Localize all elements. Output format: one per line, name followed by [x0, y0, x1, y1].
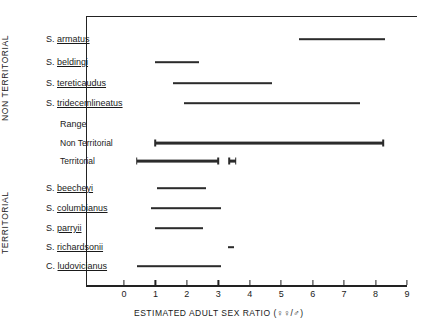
range-bar	[155, 142, 383, 145]
row-label-epithet: richardsonii	[57, 242, 103, 252]
range-bar	[228, 246, 234, 248]
x-axis-tick	[155, 280, 156, 285]
x-axis-tick	[375, 280, 376, 285]
group-label-territorial: TERRITORIAL	[0, 170, 22, 275]
x-axis-line	[86, 285, 407, 287]
row-label: S. beldingi	[46, 57, 88, 67]
x-axis-tick-label: 0	[121, 289, 126, 299]
x-axis-tick-label: 9	[404, 289, 409, 299]
row-label-genus: S.	[46, 98, 57, 108]
row-label-genus: S.	[46, 57, 57, 67]
row-label-genus: S.	[46, 223, 57, 233]
row-label-epithet: columbianus	[57, 203, 108, 213]
range-bar-cap	[218, 158, 220, 165]
row-label: Territorial	[60, 156, 95, 166]
row-label: S. columbianus	[46, 203, 108, 213]
row-label-genus: S.	[46, 183, 57, 193]
x-axis-tick	[218, 280, 219, 285]
range-bar	[184, 102, 360, 104]
range-bar-cap	[155, 140, 157, 147]
row-label-genus: S.	[46, 78, 57, 88]
row-label-epithet: tereticaudus	[57, 78, 106, 88]
row-label-epithet: beecheyi	[57, 183, 93, 193]
x-axis-tick-label: 4	[247, 289, 252, 299]
range-bar-cap	[235, 158, 237, 165]
row-label: S. tereticaudus	[46, 78, 106, 88]
x-axis-tick	[406, 280, 407, 285]
plot-frame	[86, 16, 417, 285]
row-label-epithet: tridecemlineatus	[57, 98, 123, 108]
x-axis-title: ESTIMATED ADULT SEX RATIO (♀♀/♂)	[134, 308, 304, 318]
x-axis-tick-label: 5	[279, 289, 284, 299]
x-axis-tick-label: 6	[310, 289, 315, 299]
row-label-genus: S.	[46, 242, 57, 252]
range-bar	[299, 38, 385, 40]
range-bar	[137, 160, 219, 163]
x-axis-tick	[123, 280, 124, 285]
range-bar	[157, 187, 206, 189]
figure-canvas: NON TERRITORIAL TERRITORIAL S. armatusS.…	[0, 0, 424, 330]
range-bar-cap	[136, 158, 138, 165]
range-bar	[137, 265, 222, 267]
row-label: S. richardsonii	[46, 242, 103, 252]
x-axis-tick	[344, 280, 345, 285]
row-label-genus: C.	[46, 261, 58, 271]
range-heading: Range	[60, 119, 87, 129]
row-label: C. ludovicianus	[46, 261, 107, 271]
row-label: S. tridecemlineatus	[46, 98, 123, 108]
range-bar	[155, 61, 199, 63]
row-label-epithet: parryii	[57, 223, 82, 233]
x-axis-tick-label: 1	[153, 289, 158, 299]
range-bar-cap	[229, 158, 231, 165]
x-axis-tick-label: 2	[184, 289, 189, 299]
row-label-genus: S.	[46, 34, 57, 44]
x-axis-tick-label: 7	[342, 289, 347, 299]
row-label-epithet: ludovicianus	[58, 261, 108, 271]
row-label-epithet: armatus	[57, 34, 90, 44]
row-label: S. armatus	[46, 34, 90, 44]
row-label-genus: S.	[46, 203, 57, 213]
row-label-epithet: beldingi	[57, 57, 88, 67]
x-axis-tick-label: 3	[216, 289, 221, 299]
range-bar	[155, 227, 202, 229]
row-label: S. beecheyi	[46, 183, 93, 193]
x-axis-tick	[249, 280, 250, 285]
range-bar	[173, 82, 272, 84]
x-axis-tick	[281, 280, 282, 285]
group-label-non-territorial: NON TERRITORIAL	[0, 18, 22, 138]
x-axis-tick-label: 8	[373, 289, 378, 299]
row-label: S. parryii	[46, 223, 82, 233]
x-axis-tick	[186, 280, 187, 285]
row-label: Non Territorial	[60, 138, 113, 148]
range-bar	[151, 207, 222, 209]
range-bar-cap	[383, 140, 385, 147]
x-axis-tick	[312, 280, 313, 285]
